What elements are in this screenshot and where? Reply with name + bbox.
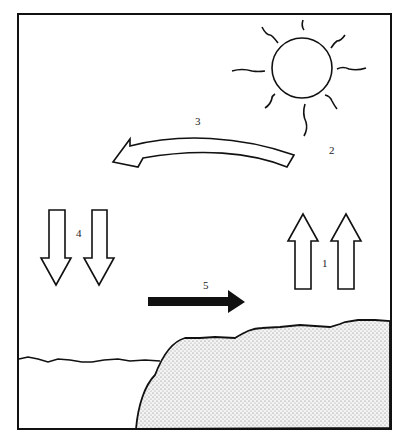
label-2: 2 [329,144,335,156]
label-3: 3 [195,115,201,127]
label-1: 1 [322,257,328,269]
diagram: 2 3 4 1 5 [0,0,403,442]
label-4: 4 [76,227,82,239]
label-5: 5 [203,279,209,291]
